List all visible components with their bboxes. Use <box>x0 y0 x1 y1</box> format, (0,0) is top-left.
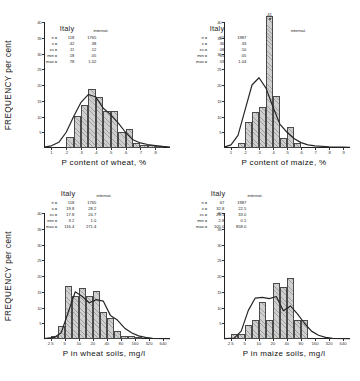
stats-row: n =1181765 <box>46 35 96 41</box>
panel-p-wheat-soils: FREQUENCY per cent 403530252015105 2.551… <box>0 191 180 381</box>
curve-path <box>44 94 170 147</box>
stats-header-1: Italy internat. <box>46 24 114 35</box>
stats-block-1: Italy internat. n =1181765x =.42.38±s =.… <box>46 24 114 65</box>
stats-value-italy: 116.4 <box>58 224 74 230</box>
x-axis-label-3: P in wheat soils, mg/l <box>34 349 174 358</box>
stats-table-3: n =1181765x =19.828.2±s =17.824.7min =3.… <box>46 200 96 231</box>
stats-value-intl: 1.02 <box>74 59 96 65</box>
stats-col-italy: Italy <box>46 189 90 200</box>
stats-key: max = <box>46 224 58 230</box>
stats-table-4: n =671987x =32.822.5±s =23.133.0min =2.8… <box>196 200 246 231</box>
figure-root: FREQUENCY per cent 403530252015105 1.2.3… <box>0 0 360 381</box>
stats-header-2: Italy internat. <box>196 24 306 35</box>
stats-block-2: Italy internat. n =611987x =.36.33±s =.0… <box>196 24 306 65</box>
x-axis-label-2: P content of maize, % <box>214 158 354 167</box>
panel-p-content-wheat: FREQUENCY per cent 403530252015105 1.2.3… <box>0 0 180 190</box>
stats-col-intl: internat. <box>240 193 270 200</box>
stats-block-4: Italy internat. n =671987x =32.822.5±s =… <box>196 189 270 230</box>
stats-row: max =105.0858.0 <box>196 224 246 230</box>
curve-path <box>44 292 170 339</box>
stats-row: n =611987 <box>196 35 246 41</box>
stats-col-italy: Italy <box>196 189 240 200</box>
stats-value-italy: .59 <box>208 59 224 65</box>
stats-value-intl: 858.0 <box>224 224 246 230</box>
stats-row: max =116.4271.4 <box>46 224 96 230</box>
stats-key: max = <box>196 59 208 65</box>
x-axis-label-4: P in maize soils, mg/l <box>214 349 354 358</box>
stats-value-italy: .78 <box>58 59 74 65</box>
stats-col-italy: Italy <box>46 24 88 35</box>
stats-value-italy: 105.0 <box>208 224 224 230</box>
panel-p-maize-soils: 403530252015105 2.5510204080160320640 It… <box>180 191 360 381</box>
stats-block-3: Italy internat. n =1181765x =19.828.2±s … <box>46 189 118 230</box>
y-axis-label: FREQUENCY per cent <box>2 22 14 148</box>
stats-row: n =671987 <box>196 200 246 206</box>
stats-header-3: Italy internat. <box>46 189 118 200</box>
peak-marker-dot <box>269 18 271 20</box>
distribution-curve-3 <box>44 213 170 339</box>
x-axis-label-1: P content of wheat, % <box>34 158 174 167</box>
stats-row: n =1181765 <box>46 200 96 206</box>
stats-value-intl: 271.4 <box>74 224 96 230</box>
curve-path <box>224 296 350 338</box>
curve-path <box>224 78 350 148</box>
plot-area-3: 403530252015105 2.5510204080160320640 <box>44 213 170 339</box>
stats-row: max =.591.04 <box>196 59 246 65</box>
plot-area-4: 403530252015105 2.5510204080160320640 <box>224 213 350 339</box>
stats-table-2: n =611987x =.36.33±s =.08.10min =.15.05m… <box>196 35 246 66</box>
stats-key: max = <box>196 224 208 230</box>
stats-col-intl: internat. <box>88 28 114 35</box>
stats-col-intl: internat. <box>238 28 306 35</box>
stats-col-intl: internat. <box>90 193 118 200</box>
distribution-curve-4 <box>224 213 350 339</box>
stats-col-italy: Italy <box>196 24 238 35</box>
panel-p-content-maize: 403530252015105 1.2.3.4.5.6.7.8.9 41 Ita… <box>180 0 360 190</box>
stats-value-intl: 1.04 <box>224 59 246 65</box>
stats-key: max = <box>46 59 58 65</box>
y-axis-label: FREQUENCY per cent <box>2 213 14 339</box>
stats-row: max =.781.02 <box>46 59 96 65</box>
stats-table-1: n =1181765x =.42.38±s =.11.12min =.18.05… <box>46 35 96 66</box>
peak-value-label: 41 <box>267 12 272 17</box>
stats-header-4: Italy internat. <box>196 189 270 200</box>
